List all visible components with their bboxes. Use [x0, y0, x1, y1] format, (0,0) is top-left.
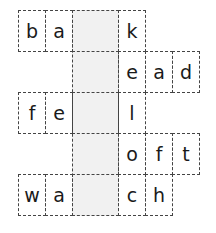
letter-cell: c: [118, 174, 146, 216]
letter-cell: e: [118, 51, 146, 93]
letter-cell: a: [45, 174, 73, 216]
missing-letter-cell[interactable]: [72, 92, 119, 134]
letter-cell: k: [118, 10, 146, 52]
missing-letter-cell[interactable]: [72, 51, 119, 93]
letter-cell: b: [18, 10, 46, 52]
letter-cell: e: [45, 92, 73, 134]
letter-cell: f: [18, 92, 46, 134]
letter-cell: l: [118, 92, 146, 134]
letter-cell: a: [45, 10, 73, 52]
missing-letter-cell[interactable]: [72, 133, 119, 175]
letter-cell: h: [145, 174, 173, 216]
letter-cell: t: [172, 133, 200, 175]
letter-cell: a: [145, 51, 173, 93]
letter-cell: o: [118, 133, 146, 175]
letter-cell: w: [18, 174, 46, 216]
letter-cell: d: [172, 51, 200, 93]
word-puzzle-grid: b a k e a d f e l o f t w a c h: [0, 0, 216, 233]
missing-letter-cell[interactable]: [72, 174, 119, 216]
missing-letter-cell[interactable]: [72, 10, 119, 52]
letter-cell: f: [145, 133, 173, 175]
